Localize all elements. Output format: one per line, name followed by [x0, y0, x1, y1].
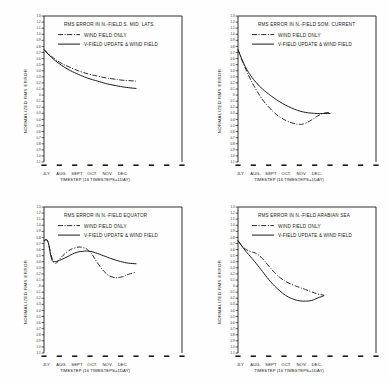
series-line-v-field-update [44, 239, 136, 263]
y-tick-label: 0.6 [231, 130, 235, 134]
y-tick-label: 0.5 [231, 124, 235, 128]
x-axis-title: TIMESTEP (16 TIMESTEPS=1DAY) [60, 177, 131, 182]
y-tick-label: 0.8 [37, 142, 41, 146]
y-tick-label: 0.2 [231, 296, 235, 300]
y-tick-label: 1.0 [231, 32, 235, 36]
y-tick-label: 0.9 [231, 38, 235, 42]
y-tick-label: 0.4 [37, 118, 41, 122]
y-tick-label: 1.1 [37, 217, 41, 221]
x-tick-label: DEC. [312, 362, 322, 367]
y-tick-label: 0.1 [37, 87, 41, 91]
legend-label: WIND FIELD ONLY [278, 33, 321, 38]
x-tick-label: OCT. [281, 362, 291, 367]
y-tick-label: 1.3 [37, 14, 41, 18]
x-tick-label: DEC. [118, 171, 128, 176]
y-tick-label: 0.2 [37, 296, 41, 300]
y-tick-label: 0.4 [231, 69, 235, 73]
legend-label: WIND FIELD ONLY [84, 224, 127, 229]
y-tick-label: 0.9 [37, 148, 41, 152]
x-tick-label: AUG. [250, 362, 261, 367]
x-tick-label: AUG. [56, 171, 67, 176]
y-tick-label: 1.0 [37, 32, 41, 36]
plot-svg: 1.31.21.11.00.90.80.70.60.50.40.30.20.10… [0, 191, 194, 382]
y-axis: 1.31.21.11.00.90.80.70.60.50.40.30.20.10… [231, 14, 238, 164]
y-tick-label: 0.2 [37, 272, 41, 276]
y-axis-title: NORMALIZED RMS ERROR [23, 69, 28, 134]
y-axis: 1.31.21.11.00.90.80.70.60.50.40.30.20.10… [37, 205, 44, 355]
x-tick-label: SEPT [71, 171, 83, 176]
y-tick-label: 0.5 [231, 63, 235, 67]
y-tick-label: 0.6 [231, 57, 235, 61]
y-tick-label: 0.3 [231, 111, 235, 115]
series-line-wind-field-only [44, 50, 136, 81]
x-tick-label: NOV. [297, 362, 307, 367]
chart-panel-bottom-left: 1.31.21.11.00.90.80.70.60.50.40.30.20.10… [0, 191, 194, 382]
y-tick-label: 1.0 [231, 223, 235, 227]
y-tick-label: 1.3 [37, 205, 41, 209]
y-tick-label: 0.4 [37, 260, 41, 264]
x-tick-label: JLY [237, 171, 244, 176]
y-tick-label: 1.0 [37, 154, 41, 158]
y-tick-label: 0.7 [37, 242, 41, 246]
series-line-wind-field-only [238, 241, 324, 295]
y-tick-label: 0.7 [37, 51, 41, 55]
y-tick-label: 0.9 [231, 339, 235, 343]
y-tick-label: 1.1 [37, 160, 41, 164]
y-tick-label: 0 [233, 284, 235, 288]
y-tick-label: 1.1 [37, 351, 41, 355]
y-tick-label: 0.4 [37, 69, 41, 73]
y-tick-label: 0.6 [37, 248, 41, 252]
x-axis-title: TIMESTEP (16 TIMESTEPS=1DAY) [60, 368, 131, 373]
y-tick-label: 0.6 [37, 57, 41, 61]
plot-frame [44, 16, 182, 162]
y-tick-label: 0.8 [37, 45, 41, 49]
y-tick-label: 0.3 [37, 111, 41, 115]
chart-panel-top-left: 1.31.21.11.00.90.80.70.60.50.40.30.20.10… [0, 0, 194, 191]
y-tick-label: 1.2 [37, 211, 41, 215]
plot-svg: 1.31.21.11.00.90.80.70.60.50.40.30.20.10… [194, 191, 388, 382]
y-tick-label: 0.7 [37, 136, 41, 140]
x-tick-label: JLY [43, 171, 50, 176]
y-tick-label: 0.7 [231, 136, 235, 140]
x-tick-label: OCT. [87, 362, 97, 367]
y-tick-label: 0.5 [231, 254, 235, 258]
legend-label: WIND FIELD ONLY [84, 33, 127, 38]
x-tick-label: SEPT [265, 171, 277, 176]
y-tick-label: 1.0 [231, 154, 235, 158]
x-axis-title: TIMESTEP (16 TIMESTEPS=1DAY) [254, 368, 325, 373]
y-tick-label: 0.7 [231, 242, 235, 246]
y-tick-label: 0.2 [231, 272, 235, 276]
y-tick-label: 0.1 [37, 278, 41, 282]
y-tick-label: 0.5 [37, 254, 41, 258]
y-tick-label: 1.3 [231, 205, 235, 209]
y-tick-label: 0.5 [37, 63, 41, 67]
y-tick-label: 1.2 [37, 20, 41, 24]
y-tick-label: 0.2 [231, 81, 235, 85]
y-tick-label: 0.1 [231, 290, 235, 294]
x-tick-label: NOV. [103, 362, 113, 367]
panel-title: RMS ERROR IN N.-FIELD EQUATOR [64, 213, 148, 218]
legend-label: WIND FIELD ONLY [278, 224, 321, 229]
legend-label: V-FIELD UPDATE & WIND FIELD [84, 42, 158, 47]
x-tick-label: OCT. [87, 171, 97, 176]
x-tick-label: AUG. [56, 362, 67, 367]
y-tick-label: 0.9 [37, 38, 41, 42]
y-tick-label: 0.1 [231, 99, 235, 103]
y-tick-label: 0.3 [231, 302, 235, 306]
y-tick-label: 1.2 [231, 211, 235, 215]
y-tick-label: 0.1 [231, 87, 235, 91]
y-tick-label: 0.7 [231, 327, 235, 331]
x-tick-label: JLY [43, 362, 50, 367]
plot-frame [238, 16, 376, 162]
y-tick-label: 0.4 [37, 309, 41, 313]
y-tick-label: 0.2 [231, 105, 235, 109]
y-axis: 1.31.21.11.00.90.80.70.60.50.40.30.20.10… [37, 14, 44, 164]
y-tick-label: 0.3 [231, 75, 235, 79]
y-tick-label: 0.9 [231, 229, 235, 233]
y-tick-label: 1.1 [231, 217, 235, 221]
y-tick-label: 1.0 [37, 223, 41, 227]
y-tick-label: 0.6 [37, 321, 41, 325]
y-tick-label: 0.5 [37, 124, 41, 128]
chart-panel-bottom-right: 1.31.21.11.00.90.80.70.60.50.40.30.20.10… [194, 191, 388, 382]
x-tick-label: NOV. [103, 171, 113, 176]
